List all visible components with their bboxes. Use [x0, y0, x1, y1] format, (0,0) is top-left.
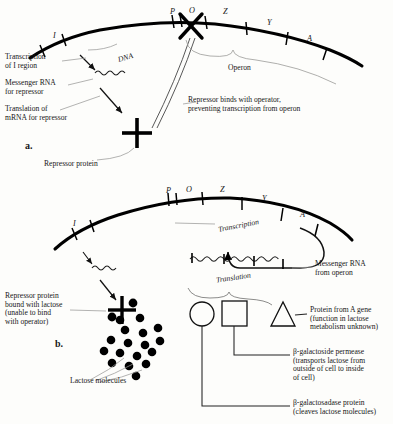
annotation-translation-a: Translation of mRNA for repressor — [5, 105, 67, 122]
gene-label-z-b: Z — [220, 185, 225, 194]
gene-label-p-a: P — [170, 7, 175, 16]
gene-label-i-b: I — [73, 219, 76, 228]
operon-label: Operon — [228, 64, 251, 73]
operon-brace — [186, 40, 336, 84]
annotation-messenger-rna-a: Messenger RNA for repressor — [5, 79, 56, 96]
translation-arrow-a — [100, 88, 122, 113]
panel-a-graphics — [30, 14, 362, 160]
translation-arrow-b — [100, 280, 116, 300]
gene-label-o-b: O — [186, 185, 192, 194]
annotation-repressor-protein-a: Repressor protein — [44, 160, 98, 169]
lactose-molecule-cluster — [100, 314, 165, 381]
gene-label-a-a: A — [307, 34, 312, 43]
figure-canvas: I P O Z Y A DNA Operon Transcription of … — [0, 0, 393, 424]
transcription-arrow-a — [80, 55, 95, 70]
shape-connectors — [202, 314, 307, 406]
gene-label-y-a: Y — [267, 18, 272, 27]
repressor-protein-cross-a — [122, 118, 152, 148]
gene-label-a-b: A — [300, 210, 305, 219]
shape-triangle-protein-a — [271, 302, 295, 326]
repressor-x-at-operator — [180, 14, 202, 38]
transcription-arrow-b — [83, 252, 92, 264]
mrna-squiggle-b — [92, 266, 116, 270]
gene-label-y-b: Y — [262, 194, 267, 203]
transcription-loop-arrow — [228, 228, 324, 268]
panel-marker-a: a. — [25, 140, 33, 151]
blocked-transcription-lines — [152, 38, 195, 128]
annotation-repressor-binds: Repressor binds with operator, preventin… — [188, 96, 300, 113]
annotation-galactosidase: β-galactosadase protein (cleaves lactose… — [293, 399, 376, 416]
annotation-lactose-molecules: Lactose molecules — [70, 377, 126, 386]
shape-circle-galactosidase — [190, 302, 214, 326]
annotation-transcription-i: Transcription of I region — [5, 53, 46, 70]
mrna-strand-b — [190, 257, 278, 262]
annotation-repressor-lactose: Repressor protein bound with lactose (un… — [5, 292, 62, 326]
leader-lines-b — [70, 223, 313, 382]
gene-label-z-a: Z — [223, 7, 228, 16]
gene-label-o-a: O — [189, 6, 195, 15]
gene-label-i-a: I — [53, 31, 56, 40]
gene-label-p-b: P — [166, 186, 171, 195]
shape-square-permease — [222, 301, 247, 326]
panel-marker-b: b. — [55, 338, 63, 349]
mrna-squiggle-a — [95, 71, 125, 75]
annotation-protein-a-gene: Protein from A gene (function in lactose… — [310, 306, 378, 332]
annotation-messenger-rna-b: Messenger RNA from operon — [315, 260, 366, 277]
annotation-permease: β-galactoside permease (transports lacto… — [293, 348, 365, 382]
